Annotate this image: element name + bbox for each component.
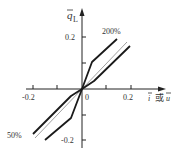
x-tick-pos: 0.2 (123, 93, 133, 102)
y-tick-pos: 0.2 (65, 33, 75, 42)
y-axis-label: q L (67, 9, 78, 24)
x-tick-zero: 0 (85, 93, 89, 102)
y-axis-arrow-icon (80, 8, 85, 16)
annotation-200: 200% (102, 27, 121, 36)
svg-text:u: u (166, 94, 170, 103)
y-tick-neg: -0.2 (61, 136, 74, 145)
x-axis-arrow-icon (158, 87, 166, 92)
svg-text:L: L (73, 15, 78, 24)
chart: -0.2 0 0.2 0.2 -0.2 q L i 或 u 200% 50% (0, 0, 185, 159)
annotation-50: 50% (7, 131, 22, 140)
svg-text:或: 或 (155, 92, 164, 103)
x-tick-neg: -0.2 (22, 93, 35, 102)
x-axis-label: i 或 u (148, 92, 171, 103)
svg-text:i: i (148, 94, 150, 103)
